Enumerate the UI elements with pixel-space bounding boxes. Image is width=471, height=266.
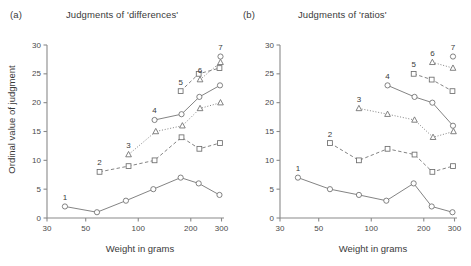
data-point-marker [430, 59, 436, 64]
x-tick-label: 100 [132, 224, 146, 233]
data-point-marker [450, 210, 455, 215]
data-point-marker [126, 164, 131, 169]
data-point-marker [450, 54, 455, 59]
y-tick-label: 0 [37, 214, 42, 223]
x-tick-label: 50 [314, 224, 323, 233]
y-tick-label: 20 [265, 98, 274, 107]
data-point-marker [450, 123, 455, 128]
panel-a-x-axis-label: Weight in grams [50, 243, 230, 254]
series-line [155, 85, 220, 120]
y-tick-label: 5 [37, 185, 42, 194]
data-point-marker [218, 100, 224, 105]
x-tick-label: 300 [448, 224, 462, 233]
data-point-marker [327, 187, 332, 192]
data-point-marker [356, 105, 362, 110]
y-tick-label: 10 [32, 156, 41, 165]
series-number-label: 7 [218, 43, 223, 52]
data-point-marker [218, 54, 223, 59]
data-point-marker [196, 181, 201, 186]
series-line [432, 62, 453, 68]
series-line [100, 137, 220, 172]
data-point-marker [97, 169, 102, 174]
series-number-label: 3 [357, 95, 362, 104]
y-tick-label: 10 [265, 156, 274, 165]
series-line [330, 143, 453, 172]
series-line [388, 85, 453, 125]
data-point-marker [179, 135, 184, 140]
y-tick-label: 5 [270, 185, 275, 194]
data-point-marker [412, 117, 418, 122]
data-point-marker [385, 146, 390, 151]
data-point-marker [411, 181, 416, 186]
series-number-label: 5 [178, 78, 183, 87]
data-point-marker [197, 146, 202, 151]
x-tick-label: 100 [365, 224, 379, 233]
y-tick-label: 30 [32, 41, 41, 50]
data-point-marker [429, 204, 434, 209]
data-point-marker [411, 71, 416, 76]
data-point-marker [328, 141, 333, 146]
data-point-marker [450, 65, 456, 70]
data-point-marker [412, 152, 417, 157]
data-point-marker [178, 89, 183, 94]
data-point-marker [384, 198, 389, 203]
data-point-marker [451, 128, 457, 133]
y-tick-label: 0 [270, 214, 275, 223]
data-point-marker [357, 158, 362, 163]
series-number-label: 1 [296, 164, 301, 173]
data-point-marker [126, 151, 132, 156]
series-number-label: 1 [63, 193, 68, 202]
y-tick-label: 30 [265, 41, 274, 50]
data-point-marker [197, 77, 203, 82]
data-point-marker [217, 192, 222, 197]
series-number-label: 4 [152, 106, 157, 115]
data-point-marker [123, 198, 128, 203]
data-point-marker [356, 192, 361, 197]
data-point-marker [430, 100, 435, 105]
y-tick-label: 25 [265, 69, 274, 78]
data-point-marker [217, 83, 222, 88]
series-line [129, 103, 221, 155]
series-number-label: 2 [328, 130, 333, 139]
panel-b-x-axis-label: Weight in grams [283, 243, 463, 254]
data-point-marker [153, 128, 159, 133]
y-tick-label: 25 [32, 69, 41, 78]
series-line [414, 74, 453, 91]
series-number-label: 7 [451, 43, 456, 52]
data-point-marker [451, 164, 456, 169]
series-number-label: 6 [198, 66, 203, 75]
y-tick-label: 20 [32, 98, 41, 107]
data-point-marker [152, 117, 157, 122]
x-tick-label: 30 [43, 224, 52, 233]
data-point-marker [412, 94, 417, 99]
data-point-marker [429, 77, 434, 82]
series-number-label: 5 [411, 60, 416, 69]
panel-a-plot: 05101520253030501002003001234567 [0, 0, 236, 266]
series-line [359, 108, 454, 137]
panel-b-plot: 05101520253030501002003001234567 [235, 0, 471, 266]
panel-b: (b) Judgments of 'ratios' 05101520253030… [235, 0, 471, 266]
data-point-marker [179, 112, 184, 117]
data-point-marker [295, 175, 300, 180]
data-point-marker [62, 204, 67, 209]
x-tick-label: 50 [81, 224, 90, 233]
data-point-marker [218, 59, 224, 64]
series-number-label: 4 [385, 72, 390, 81]
data-point-marker [385, 83, 390, 88]
data-point-marker [151, 187, 156, 192]
x-tick-label: 200 [184, 224, 198, 233]
data-point-marker [217, 66, 222, 71]
data-point-marker [385, 111, 391, 116]
data-point-marker [152, 158, 157, 163]
data-point-marker [218, 141, 223, 146]
data-point-marker [94, 210, 99, 215]
data-point-marker [178, 175, 183, 180]
x-tick-label: 30 [276, 224, 285, 233]
series-number-label: 6 [430, 49, 435, 58]
series-number-label: 2 [97, 158, 102, 167]
panel-a: (a) Judgments of 'differences' Ordinal v… [0, 0, 236, 266]
x-tick-label: 300 [215, 224, 229, 233]
series-number-label: 3 [126, 141, 131, 150]
figure-root: (a) Judgments of 'differences' Ordinal v… [0, 0, 471, 266]
data-point-marker [197, 94, 202, 99]
